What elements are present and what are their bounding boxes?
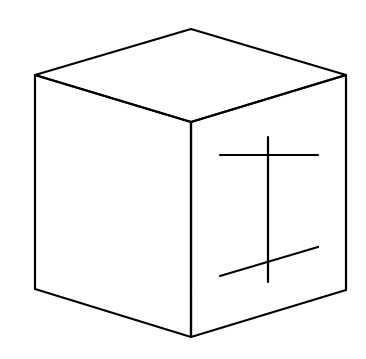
cube-diagram [0, 0, 366, 359]
cube-top-face [35, 29, 346, 122]
face-symbol [220, 137, 318, 282]
cube [35, 29, 346, 337]
cube-left-face [35, 75, 191, 337]
